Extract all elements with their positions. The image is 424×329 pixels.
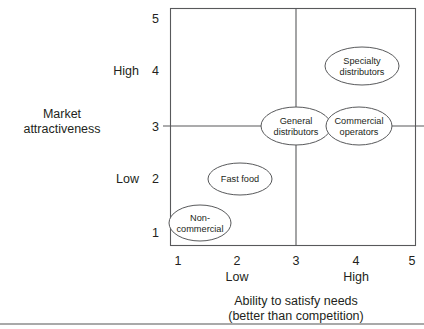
x-tick-label-5: 5 [409,254,416,268]
x-anchor-low-label: Low [226,270,250,284]
bubble-ellipse [261,107,331,145]
data-point-specialty-distributors[interactable]: Specialty distributors [325,47,399,85]
x-axis-title-line2: (better than competition) [228,309,364,323]
bubble-label-line1: Non- [190,213,210,223]
y-tick-label-3: 3 [152,120,159,134]
bubble-label-line1: Specialty [343,56,381,66]
bubble-label-line2: distributors [340,67,385,77]
bubble-label-line2: distributors [274,127,319,137]
x-tick-label-4: 4 [353,254,360,268]
y-tick-label-4: 4 [152,64,159,78]
bubble-ellipse [169,205,231,241]
matrix-chart-figure: 5 4 3 2 1 High Low Market attractiveness… [0,0,424,329]
data-point-fast-food[interactable]: Fast food [208,163,272,195]
bubble-label-line2: operators [340,127,379,137]
y-tick-label-1: 1 [152,226,159,240]
x-tick-label-2: 2 [234,254,241,268]
y-axis-title-line2: attractiveness [23,122,100,136]
bubble-ellipse [325,47,399,85]
data-point-general-distributors[interactable]: General distributors [261,107,331,145]
x-tick-label-1: 1 [175,254,182,268]
data-point-commercial-operators[interactable]: Commercial operators [326,107,392,145]
y-anchor-low-label: Low [116,172,140,186]
y-tick-label-5: 5 [152,12,159,26]
x-axis-title-line1: Ability to satisfy needs [234,294,358,308]
y-axis-title-line1: Market [43,107,82,121]
x-anchor-high-label: High [343,270,369,284]
data-point-non-commercial[interactable]: Non- commercial [169,205,231,241]
bubble-label-line1: Commercial [334,116,383,126]
bubble-label-line1: General [280,116,313,126]
y-tick-label-2: 2 [152,172,159,186]
bubble-ellipse [326,107,392,145]
x-tick-label-3: 3 [293,254,300,268]
bubble-label-line1: Fast food [221,174,259,184]
y-anchor-high-label: High [113,64,139,78]
bubble-label-line2: commercial [177,224,224,234]
